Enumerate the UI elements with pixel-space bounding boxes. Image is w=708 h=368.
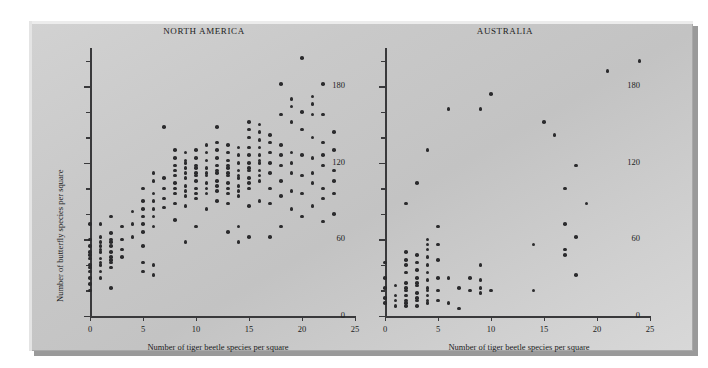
scatter-point xyxy=(563,253,567,257)
scatter-point xyxy=(99,257,103,261)
scatter-point xyxy=(173,169,177,173)
scatter-point xyxy=(205,207,209,211)
x-axis-tick xyxy=(90,316,91,321)
scatter-point xyxy=(300,174,304,178)
plate-bevel-top xyxy=(29,21,693,24)
scatter-point xyxy=(194,148,198,152)
scatter-point xyxy=(131,222,135,226)
scatter-point xyxy=(88,244,92,248)
scatter-point xyxy=(426,148,430,152)
scatter-point xyxy=(247,176,251,180)
scatter-point xyxy=(205,192,209,196)
y-axis-major-tick xyxy=(379,163,385,164)
scatter-point xyxy=(300,215,304,219)
panel-title-north-america: NORTH AMERICA xyxy=(45,26,363,36)
scatter-point xyxy=(215,184,219,188)
scatter-point xyxy=(489,92,493,96)
y-axis-tick-label: 120 xyxy=(614,157,640,167)
scatter-point xyxy=(109,286,113,290)
scatter-point xyxy=(205,187,209,191)
scatter-point xyxy=(436,276,440,280)
scatter-point xyxy=(247,153,251,157)
scatter-point xyxy=(109,244,113,248)
scatter-point xyxy=(311,113,315,117)
scatter-point xyxy=(226,202,230,206)
x-axis-tick-label: 20 xyxy=(290,324,314,334)
x-axis-tick xyxy=(491,316,492,321)
scatter-point xyxy=(415,261,419,265)
x-axis-tick-label: 15 xyxy=(237,324,261,334)
scatter-point xyxy=(468,276,472,280)
scatter-point xyxy=(109,215,113,219)
x-axis-tick-label: 10 xyxy=(184,324,208,334)
scatter-point xyxy=(606,69,610,73)
x-axis-line xyxy=(90,316,355,318)
scatter-point xyxy=(226,164,230,168)
scatter-point xyxy=(279,194,283,198)
scatter-point xyxy=(173,174,177,178)
scatter-point xyxy=(426,271,430,275)
scatter-point xyxy=(226,192,230,196)
y-axis-tick-label: 180 xyxy=(614,80,640,90)
scatter-point xyxy=(120,238,124,242)
scatter-point xyxy=(290,105,294,109)
scatter-point xyxy=(88,266,92,270)
y-axis-major-tick xyxy=(379,86,385,87)
scatter-point xyxy=(226,143,230,147)
scatter-point xyxy=(258,153,262,157)
scatter-point xyxy=(574,164,578,168)
scatter-point xyxy=(332,212,336,216)
scatter-point xyxy=(404,258,408,262)
scatter-point xyxy=(279,143,283,147)
scatter-point xyxy=(415,181,419,185)
scatter-point xyxy=(436,225,440,229)
scatter-point xyxy=(563,248,567,252)
scatter-point xyxy=(99,235,103,239)
scatter-point xyxy=(321,187,325,191)
scatter-point xyxy=(88,270,92,274)
y-axis-minor-tick xyxy=(381,188,385,189)
scatter-point xyxy=(109,250,113,254)
scatter-point xyxy=(300,192,304,196)
scatter-point xyxy=(99,240,103,244)
scatter-point xyxy=(247,166,251,170)
scatter-point xyxy=(300,153,304,157)
scatter-point xyxy=(194,197,198,201)
scatter-point xyxy=(404,281,408,285)
scatter-point xyxy=(332,148,336,152)
scatter-point xyxy=(141,270,145,274)
x-axis-tick xyxy=(438,316,439,321)
scatter-point xyxy=(152,171,156,175)
y-axis-minor-tick xyxy=(86,188,90,189)
scatter-point xyxy=(436,243,440,247)
scatter-point xyxy=(184,151,188,155)
scatter-point xyxy=(258,199,262,203)
scatter-point xyxy=(109,266,113,270)
scatter-point xyxy=(194,156,198,160)
scatter-point xyxy=(404,301,408,305)
scatter-point xyxy=(457,286,461,290)
scatter-point xyxy=(563,222,567,226)
scatter-point xyxy=(205,181,209,185)
scatter-point xyxy=(184,171,188,175)
x-axis-tick xyxy=(143,316,144,321)
x-axis-tick xyxy=(249,316,250,321)
scatter-point xyxy=(120,225,124,229)
scatter-point xyxy=(332,179,336,183)
scatter-point xyxy=(194,192,198,196)
scatter-point xyxy=(415,291,419,295)
scatter-point xyxy=(479,263,483,267)
scatter-point xyxy=(321,153,325,157)
scatter-point xyxy=(226,230,230,234)
scatter-point xyxy=(141,261,145,265)
scatter-point xyxy=(383,296,387,300)
scatter-point xyxy=(215,141,219,145)
x-axis-tick-label: 10 xyxy=(479,324,503,334)
scatter-point xyxy=(173,164,177,168)
scatter-point xyxy=(237,169,241,173)
scatter-point xyxy=(574,235,578,239)
scatter-point xyxy=(383,261,387,265)
scatter-point xyxy=(88,282,92,286)
scatter-point xyxy=(215,164,219,168)
scatter-point xyxy=(162,206,166,210)
